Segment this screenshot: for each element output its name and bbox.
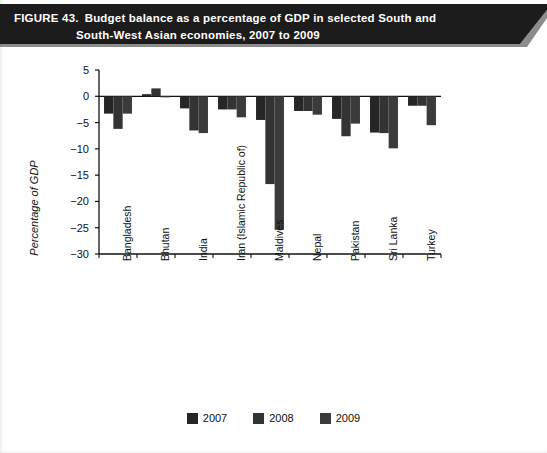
bar-maldives-2008 <box>265 96 274 184</box>
bar-pakistan-2007 <box>332 96 341 119</box>
bar-nepal-2009 <box>313 96 322 114</box>
bar-maldives-2007 <box>256 96 265 120</box>
bar-iran-islamic-republic-of-2009 <box>237 96 246 117</box>
bar-india-2009 <box>199 96 208 133</box>
bar-pakistan-2008 <box>341 96 350 136</box>
chart-legend: 2007 2008 2009 <box>0 412 547 424</box>
y-tick-label: 0 <box>55 91 89 101</box>
legend-item-2007: 2007 <box>187 412 227 424</box>
y-tick-label: 5 <box>55 65 89 75</box>
figure-title-banner: FIGURE 43.Budget balance as a percentage… <box>0 4 547 50</box>
chart-plot-area: Percentage of GDP 50−5−10−15−20−25−30Ban… <box>0 52 547 453</box>
bar-bhutan-2009 <box>161 96 170 97</box>
bar-turkey-2007 <box>408 96 417 105</box>
bar-sri-lanka-2008 <box>379 96 388 133</box>
bar-nepal-2008 <box>303 96 312 111</box>
bar-india-2007 <box>180 96 189 108</box>
bar-sri-lanka-2009 <box>389 96 398 148</box>
legend-label-2008: 2008 <box>269 412 293 424</box>
x-axis-label: Turkey <box>426 229 436 261</box>
figure-number: FIGURE 43. <box>14 12 79 24</box>
figure-caption-line1: Budget balance as a percentage of GDP in… <box>85 12 437 24</box>
x-axis-label: Nepal <box>312 234 322 261</box>
x-axis-label: Iran (Islamic Republic of) <box>236 145 246 261</box>
x-axis-label: Bangladesh <box>122 206 132 261</box>
bar-turkey-2008 <box>417 96 426 105</box>
bar-india-2008 <box>189 96 198 130</box>
y-tick-label: −25 <box>55 223 89 233</box>
bar-turkey-2009 <box>427 96 436 125</box>
bar-bhutan-2007 <box>142 94 151 96</box>
x-axis-label: Pakistan <box>350 221 360 261</box>
x-axis-label: Maldives <box>274 220 284 261</box>
bar-sri-lanka-2007 <box>370 96 379 132</box>
legend-swatch-2008 <box>253 413 264 424</box>
bar-bangladesh-2007 <box>104 96 113 113</box>
legend-label-2009: 2009 <box>336 412 360 424</box>
bar-nepal-2007 <box>294 96 303 111</box>
legend-swatch-2009 <box>320 413 331 424</box>
y-tick-label: −20 <box>55 196 89 206</box>
legend-item-2008: 2008 <box>253 412 293 424</box>
bar-bhutan-2008 <box>151 88 160 96</box>
y-tick-label: −10 <box>55 144 89 154</box>
bar-maldives-2009 <box>275 96 284 230</box>
bar-bangladesh-2008 <box>113 96 122 129</box>
x-axis-label: Bhutan <box>160 228 170 261</box>
bar-bangladesh-2009 <box>123 96 132 113</box>
x-axis-label: India <box>198 238 208 261</box>
y-tick-label: −5 <box>55 118 89 128</box>
bar-iran-islamic-republic-of-2007 <box>218 96 227 109</box>
legend-item-2009: 2009 <box>320 412 360 424</box>
bar-pakistan-2009 <box>351 96 360 123</box>
y-tick-label: −15 <box>55 170 89 180</box>
y-tick-label: −30 <box>55 249 89 259</box>
figure-caption-line2: South-West Asian economies, 2007 to 2009 <box>76 29 320 41</box>
x-axis-label: Sri Lanka <box>388 217 398 261</box>
legend-label-2007: 2007 <box>203 412 227 424</box>
bar-iran-islamic-republic-of-2008 <box>227 96 236 109</box>
figure-title-text: FIGURE 43.Budget balance as a percentage… <box>14 10 514 43</box>
legend-swatch-2007 <box>187 413 198 424</box>
